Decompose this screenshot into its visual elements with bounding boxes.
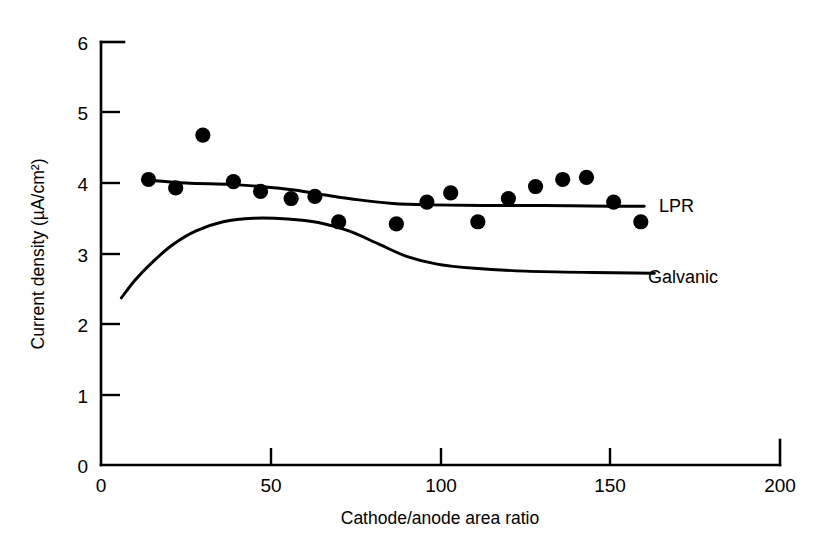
- x-tick-label-0: 0: [96, 475, 107, 496]
- data-point: [528, 179, 543, 194]
- data-point: [419, 194, 434, 209]
- data-point: [253, 184, 268, 199]
- series-label-lpr: LPR: [659, 196, 694, 216]
- y-tick-label-6: 6: [77, 33, 88, 54]
- data-point: [195, 127, 210, 142]
- x-tick-label-150: 150: [594, 475, 626, 496]
- x-axis-tick-labels: 0 50 100 150 200: [96, 475, 796, 496]
- y-axis-title: Current density (µA/cm²): [28, 159, 48, 350]
- y-tick-label-1: 1: [77, 386, 88, 407]
- y-tick-label-3: 3: [77, 245, 88, 266]
- data-point: [633, 214, 648, 229]
- y-tick-label-5: 5: [77, 103, 88, 124]
- data-point: [606, 194, 621, 209]
- x-tick-label-200: 200: [764, 475, 796, 496]
- y-tick-label-4: 4: [77, 174, 88, 195]
- x-tick-label-50: 50: [260, 475, 281, 496]
- x-axis-title: Cathode/anode area ratio: [341, 508, 539, 528]
- data-point: [168, 180, 183, 195]
- galvanic-curve: [121, 218, 654, 298]
- data-point: [331, 214, 346, 229]
- data-point: [226, 174, 241, 189]
- scatter-plot-canvas: Current density (µA/cm²) Cathode/anode a…: [0, 0, 833, 555]
- data-point: [284, 191, 299, 206]
- y-tick-label-0: 0: [77, 456, 88, 477]
- data-point: [555, 172, 570, 187]
- lpr-data-points: [141, 127, 648, 231]
- data-point: [443, 185, 458, 200]
- y-axis-tick-labels: 6 5 4 3 2 1 0: [77, 33, 88, 477]
- y-tick-label-2: 2: [77, 315, 88, 336]
- x-tick-label-100: 100: [425, 475, 457, 496]
- y-axis-ticks: [101, 42, 120, 395]
- data-point: [141, 172, 156, 187]
- series-label-galvanic: Galvanic: [648, 267, 718, 287]
- x-axis-ticks: [271, 448, 610, 465]
- data-point: [307, 189, 322, 204]
- data-point: [389, 216, 404, 231]
- data-point: [579, 170, 594, 185]
- data-point: [501, 191, 516, 206]
- chart-figure: Current density (µA/cm²) Cathode/anode a…: [0, 0, 833, 555]
- data-point: [470, 214, 485, 229]
- lpr-fit-curve: [149, 180, 645, 206]
